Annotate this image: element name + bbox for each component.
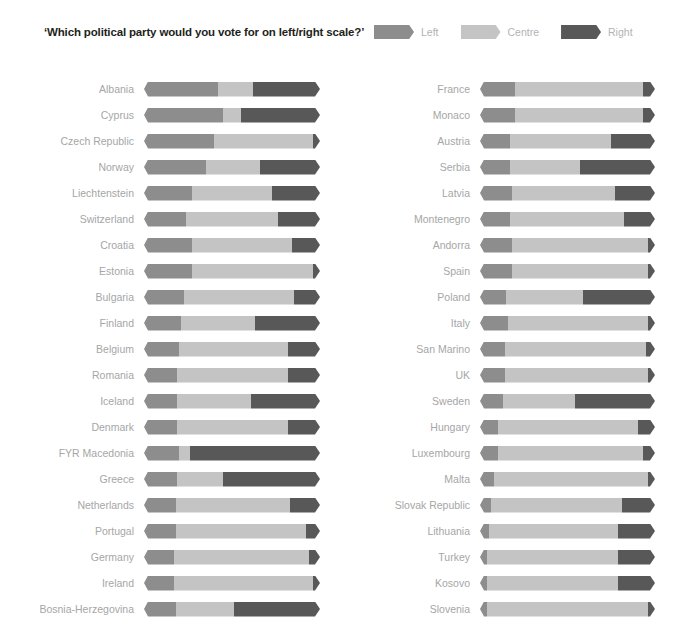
stacked-bar[interactable] xyxy=(144,394,320,409)
bar-row[interactable]: UK xyxy=(340,362,681,388)
bar-row[interactable]: Albania xyxy=(0,76,340,102)
stacked-bar[interactable] xyxy=(480,290,655,305)
bar-row-label: Liechtenstein xyxy=(0,187,144,199)
bar-row[interactable]: Austria xyxy=(340,128,681,154)
bar-row[interactable]: Monaco xyxy=(340,102,681,128)
bar-row[interactable]: Italy xyxy=(340,310,681,336)
stacked-bar[interactable] xyxy=(144,472,320,487)
bar-row-label: Poland xyxy=(340,291,480,303)
bar-row[interactable]: Poland xyxy=(340,284,681,310)
stacked-bar[interactable] xyxy=(144,160,320,175)
bar-row[interactable]: Slovenia xyxy=(340,596,681,622)
stacked-bar[interactable] xyxy=(480,446,655,461)
stacked-bar[interactable] xyxy=(480,368,655,383)
stacked-bar[interactable] xyxy=(144,368,320,383)
stacked-bar[interactable] xyxy=(144,498,320,513)
bar-row[interactable]: San Marino xyxy=(340,336,681,362)
bar-row[interactable]: Montenegro xyxy=(340,206,681,232)
bar-row[interactable]: Finland xyxy=(0,310,340,336)
bar-row[interactable]: Norway xyxy=(0,154,340,180)
stacked-bar[interactable] xyxy=(144,238,320,253)
bar-row[interactable]: Kosovo xyxy=(340,570,681,596)
stacked-bar[interactable] xyxy=(480,498,655,513)
bar-row[interactable]: Denmark xyxy=(0,414,340,440)
bar-row[interactable]: Romania xyxy=(0,362,340,388)
stacked-bar[interactable] xyxy=(144,420,320,435)
bar-row[interactable]: Liechtenstein xyxy=(0,180,340,206)
stacked-bar[interactable] xyxy=(480,602,655,617)
legend-item-right[interactable]: Right xyxy=(561,25,633,39)
legend-item-left[interactable]: Left xyxy=(374,25,439,39)
bar-row[interactable]: Ireland xyxy=(0,570,340,596)
bar-row[interactable]: France xyxy=(340,76,681,102)
bar-segment-right xyxy=(643,446,655,461)
bar-row-label: Croatia xyxy=(0,239,144,251)
stacked-bar[interactable] xyxy=(480,264,655,279)
bar-segment-right xyxy=(648,602,655,617)
stacked-bar[interactable] xyxy=(144,446,320,461)
bar-row-label: Bosnia-Herzegovina xyxy=(0,603,144,615)
stacked-bar[interactable] xyxy=(144,108,320,123)
bar-row[interactable]: Latvia xyxy=(340,180,681,206)
bar-row[interactable]: Germany xyxy=(0,544,340,570)
stacked-bar[interactable] xyxy=(480,134,655,149)
bar-row[interactable]: Luxembourg xyxy=(340,440,681,466)
stacked-bar[interactable] xyxy=(144,576,320,591)
stacked-bar[interactable] xyxy=(144,134,320,149)
stacked-bar[interactable] xyxy=(480,524,655,539)
stacked-bar[interactable] xyxy=(144,212,320,227)
stacked-bar[interactable] xyxy=(144,550,320,565)
stacked-bar[interactable] xyxy=(144,316,320,331)
bar-segment-left xyxy=(144,264,192,279)
bar-row[interactable]: Hungary xyxy=(340,414,681,440)
stacked-bar[interactable] xyxy=(480,420,655,435)
bar-segment-left xyxy=(480,446,498,461)
bar-row-label: Montenegro xyxy=(340,213,480,225)
bar-segment-centre xyxy=(505,368,649,383)
bar-row[interactable]: Bulgaria xyxy=(0,284,340,310)
stacked-bar[interactable] xyxy=(480,212,655,227)
bar-row[interactable]: Slovak Republic xyxy=(340,492,681,518)
stacked-bar[interactable] xyxy=(144,602,320,617)
stacked-bar[interactable] xyxy=(480,550,655,565)
stacked-bar[interactable] xyxy=(144,264,320,279)
bar-row[interactable]: Switzerland xyxy=(0,206,340,232)
stacked-bar[interactable] xyxy=(480,576,655,591)
stacked-bar[interactable] xyxy=(480,186,655,201)
stacked-bar[interactable] xyxy=(480,472,655,487)
bar-row[interactable]: Malta xyxy=(340,466,681,492)
stacked-bar[interactable] xyxy=(144,342,320,357)
stacked-bar[interactable] xyxy=(480,238,655,253)
bar-row[interactable]: Bosnia-Herzegovina xyxy=(0,596,340,622)
bar-row-label: Greece xyxy=(0,473,144,485)
bar-row[interactable]: Spain xyxy=(340,258,681,284)
bar-row[interactable]: Croatia xyxy=(0,232,340,258)
bar-row[interactable]: Turkey xyxy=(340,544,681,570)
stacked-bar[interactable] xyxy=(144,82,320,97)
stacked-bar[interactable] xyxy=(480,316,655,331)
legend-item-centre[interactable]: Centre xyxy=(461,25,540,39)
stacked-bar[interactable] xyxy=(480,108,655,123)
bar-row[interactable]: Iceland xyxy=(0,388,340,414)
bar-row[interactable]: Estonia xyxy=(0,258,340,284)
bar-row[interactable]: Czech Republic xyxy=(0,128,340,154)
bar-row[interactable]: FYR Macedonia xyxy=(0,440,340,466)
bar-segment-right xyxy=(306,524,320,539)
bar-segment-right xyxy=(648,368,655,383)
stacked-bar[interactable] xyxy=(480,160,655,175)
bar-row[interactable]: Sweden xyxy=(340,388,681,414)
bar-row[interactable]: Netherlands xyxy=(0,492,340,518)
bar-row[interactable]: Cyprus xyxy=(0,102,340,128)
bar-row[interactable]: Greece xyxy=(0,466,340,492)
bar-row[interactable]: Andorra xyxy=(340,232,681,258)
stacked-bar[interactable] xyxy=(480,394,655,409)
bar-row[interactable]: Lithuania xyxy=(340,518,681,544)
bar-row[interactable]: Portugal xyxy=(0,518,340,544)
stacked-bar[interactable] xyxy=(144,186,320,201)
stacked-bar[interactable] xyxy=(480,342,655,357)
bar-row[interactable]: Belgium xyxy=(0,336,340,362)
stacked-bar[interactable] xyxy=(144,524,320,539)
stacked-bar[interactable] xyxy=(480,82,655,97)
stacked-bar[interactable] xyxy=(144,290,320,305)
bar-row[interactable]: Serbia xyxy=(340,154,681,180)
